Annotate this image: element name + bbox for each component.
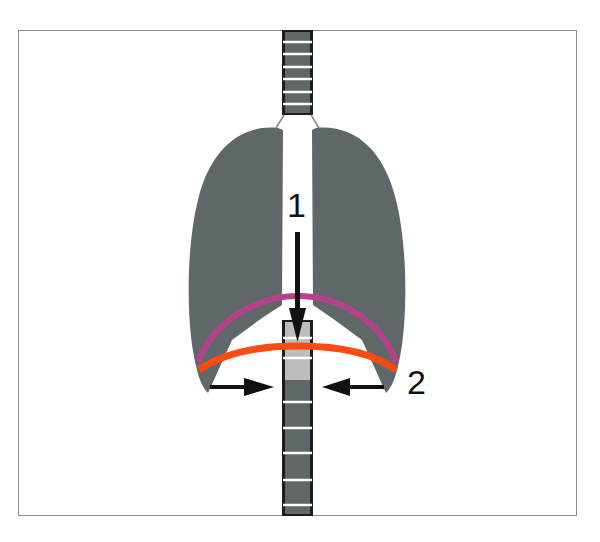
right-inward-arrow bbox=[322, 378, 384, 396]
left-inward-arrow bbox=[210, 378, 274, 396]
label-2: 2 bbox=[407, 365, 426, 399]
respiration-diagram bbox=[0, 0, 600, 542]
trachea-column bbox=[276, 30, 319, 128]
label-1: 1 bbox=[287, 188, 306, 222]
